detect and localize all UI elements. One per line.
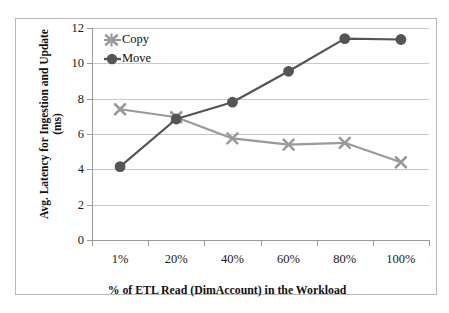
data-point-marker[interactable] xyxy=(339,33,350,44)
legend-label-copy: Copy xyxy=(122,30,149,49)
legend-entry-copy[interactable]: Copy xyxy=(104,30,151,49)
move-series-marker-icon xyxy=(104,52,121,66)
chart-figure-frame: Avg. Latency for Ingestion and Update (m… xyxy=(15,18,437,295)
data-point-marker[interactable] xyxy=(283,66,294,77)
x-axis-title: % of ETL Read (DimAccount) in the Worklo… xyxy=(16,283,438,298)
x-axis-tick-label: 80% xyxy=(333,252,356,267)
series-copy xyxy=(115,104,406,167)
series-move xyxy=(115,33,407,172)
data-point-marker[interactable] xyxy=(396,157,406,167)
legend-label-move: Move xyxy=(122,49,151,68)
copy-series-marker-icon xyxy=(104,33,121,47)
x-axis-tick-mark xyxy=(429,240,430,246)
y-axis-tick-label: 2 xyxy=(78,197,84,212)
y-axis-title-text: Avg. Latency for Ingestion and Update xyxy=(38,29,50,219)
x-axis-tick-label: 1% xyxy=(112,252,129,267)
legend-entry-move[interactable]: Move xyxy=(104,49,151,68)
data-point-marker[interactable] xyxy=(227,97,238,108)
y-axis-title: Avg. Latency for Ingestion and Update (m… xyxy=(38,19,64,229)
y-axis-tick-label: 0 xyxy=(78,233,84,248)
data-point-marker[interactable] xyxy=(115,161,126,172)
x-axis-tick-label: 20% xyxy=(165,252,188,267)
y-axis-tick-label: 12 xyxy=(72,21,85,36)
data-point-marker[interactable] xyxy=(396,34,407,45)
series-line-copy xyxy=(120,109,401,162)
x-axis-tick-label: 40% xyxy=(221,252,244,267)
chart-legend: Copy Move xyxy=(104,30,151,68)
x-axis-tick-label: 100% xyxy=(386,252,415,267)
y-axis-tick-label: 4 xyxy=(78,162,84,177)
y-axis-title-unit: (ms) xyxy=(51,19,64,229)
y-axis-tick-label: 8 xyxy=(78,91,84,106)
x-axis-tick-label: 60% xyxy=(277,252,300,267)
data-point-marker[interactable] xyxy=(171,114,182,125)
y-axis-tick-label: 10 xyxy=(72,56,85,71)
series-group xyxy=(115,33,407,172)
y-axis-tick-label: 6 xyxy=(78,127,84,142)
